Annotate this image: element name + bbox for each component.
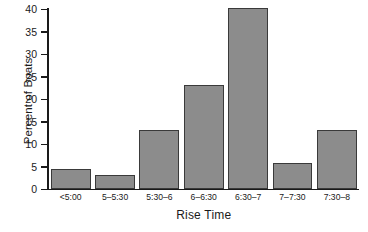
y-axis-tick-label: 20 — [25, 94, 37, 105]
bar-slot — [315, 8, 359, 189]
y-axis-tick: 10 — [41, 144, 47, 146]
bar-group — [49, 8, 360, 189]
bar-slot — [226, 8, 270, 189]
bar[interactable] — [139, 130, 179, 189]
bar-slot — [182, 8, 226, 189]
x-axis-tick-label: 6–6:30 — [182, 193, 226, 202]
bar-slot — [270, 8, 314, 189]
bar[interactable] — [273, 163, 313, 189]
bar-slot — [93, 8, 137, 189]
y-axis-tick-label: 25 — [25, 72, 37, 83]
plot-area: 0 5 10 15 20 25 30 35 40 — [47, 8, 359, 190]
x-axis-tick-label: 5:30–6 — [137, 193, 181, 202]
bar[interactable] — [228, 8, 268, 189]
y-axis-tick: 20 — [41, 99, 47, 101]
x-axis-tick-label: <5:00 — [49, 193, 93, 202]
bar[interactable] — [51, 169, 91, 189]
y-axis-tick: 35 — [41, 31, 47, 33]
y-axis-tick: 40 — [41, 9, 47, 11]
x-axis-tick-label: 7:30–8 — [315, 193, 359, 202]
bar[interactable] — [95, 175, 135, 189]
bar[interactable] — [184, 85, 224, 189]
y-axis-tick: 5 — [41, 166, 47, 168]
y-axis-tick-label: 40 — [25, 4, 37, 15]
histogram-chart: Percent of Boats 0 5 10 15 20 25 30 35 4… — [0, 0, 368, 232]
y-axis-tick-label: 15 — [25, 117, 37, 128]
bar[interactable] — [317, 130, 357, 189]
x-axis-title: Rise Time — [49, 208, 360, 222]
x-axis-tick-label: 6:30–7 — [226, 193, 270, 202]
y-axis-tick-label: 5 — [31, 162, 37, 173]
y-axis-tick: 30 — [41, 54, 47, 56]
x-axis-tick-label: 5–5:30 — [93, 193, 137, 202]
x-axis-tick-labels: <5:00 5–5:30 5:30–6 6–6:30 6:30–7 7–7:30… — [49, 193, 360, 202]
x-axis-line — [47, 189, 359, 191]
y-axis-tick-label: 10 — [25, 139, 37, 150]
x-axis-tick-label: 7–7:30 — [270, 193, 314, 202]
y-axis-tick-label: 0 — [31, 184, 37, 195]
y-axis-tick-label: 35 — [25, 27, 37, 38]
y-axis-tick: 15 — [41, 121, 47, 123]
bar-slot — [49, 8, 93, 189]
y-axis-tick: 0 — [41, 189, 47, 191]
y-axis-tick-label: 30 — [25, 49, 37, 60]
bar-slot — [137, 8, 181, 189]
y-axis-tick: 25 — [41, 76, 47, 78]
